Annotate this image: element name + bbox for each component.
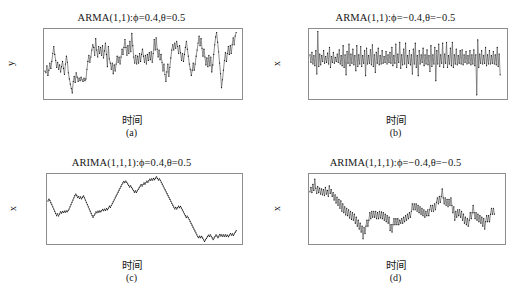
data-point [47,75,48,76]
data-point [387,54,388,55]
data-point [410,64,411,65]
data-point [319,53,320,54]
data-point [188,217,189,218]
data-point [195,63,196,64]
data-point [125,47,126,48]
data-point [334,63,335,64]
data-point [369,63,370,64]
data-point [312,63,313,64]
data-point [456,217,457,218]
data-point [147,182,148,183]
data-point [191,75,192,76]
data-point [454,54,455,55]
data-point [472,63,473,64]
data-point [438,43,439,44]
panel-c-xtick-mark [239,244,240,245]
data-point [219,63,220,64]
data-point [194,230,195,231]
data-point [233,235,234,236]
data-point [439,196,440,197]
data-point [81,79,82,80]
data-point [198,35,199,36]
data-point [105,42,106,43]
data-point [474,65,475,66]
panel-d-ytick-mark [308,238,309,239]
data-point [446,42,447,43]
data-point [53,208,54,209]
data-point [360,223,361,224]
data-point [371,211,372,212]
data-point [478,221,479,222]
data-point [320,194,321,195]
data-point [339,49,340,50]
data-point [363,227,364,228]
data-point [197,236,198,237]
data-point [380,217,381,218]
panel-a-ytick-mark [43,76,44,77]
data-point [189,219,190,220]
data-point [115,70,116,71]
data-point [383,56,384,57]
data-point [149,52,150,53]
data-point [110,207,111,208]
data-point [411,54,412,55]
data-point [131,187,132,188]
data-point [407,214,408,215]
data-point [207,236,208,237]
data-point [193,228,194,229]
data-point [134,192,135,193]
data-point [330,193,331,194]
panel-a-xtick-mark [239,99,240,100]
data-point [440,54,441,55]
data-point [394,224,395,225]
panel-c-xtick: 150 [184,244,198,245]
data-point [419,206,420,207]
data-point [97,211,98,212]
data-point [212,237,213,238]
data-point [313,190,314,191]
data-point [488,215,489,216]
data-point [91,49,92,50]
data-point [98,212,99,213]
data-point [68,72,69,73]
panel-d: ARIMA(1,1,1):ϕ=−0.4,θ=−0.5 x 20−2−4−6050… [264,145,527,290]
data-point [349,65,350,66]
data-point [177,46,178,47]
data-point [315,50,316,51]
data-point [125,180,126,181]
data-point [224,236,225,237]
data-point [385,51,386,52]
data-point [216,235,217,236]
data-point [138,189,139,190]
panel-d-title: ARIMA(1,1,1):ϕ=−0.4,θ=−0.5 [264,157,527,168]
data-point [440,202,441,203]
data-point [456,48,457,49]
data-point [67,62,68,63]
data-point [71,202,72,203]
data-point [324,63,325,64]
panel-c-xtick-mark [95,244,96,245]
data-point [433,211,434,212]
data-point [77,197,78,198]
data-point [94,213,95,214]
data-point [89,208,90,209]
data-point [463,54,464,55]
data-point [327,53,328,54]
data-point [221,234,222,235]
data-point [184,54,185,55]
data-point [214,236,215,237]
panel-c-ytick-mark [46,233,47,234]
panel-d-series-line [310,179,494,239]
data-point [436,202,437,203]
data-point [141,54,142,55]
data-point [446,199,447,200]
data-point [337,205,338,206]
data-point [331,56,332,57]
data-point [44,70,45,71]
data-point [450,197,451,198]
data-point [211,236,212,237]
panel-b-xtick-mark [358,99,359,100]
data-point [348,43,349,44]
data-point [317,186,318,187]
panel-a-xtick: 0 [43,99,46,100]
